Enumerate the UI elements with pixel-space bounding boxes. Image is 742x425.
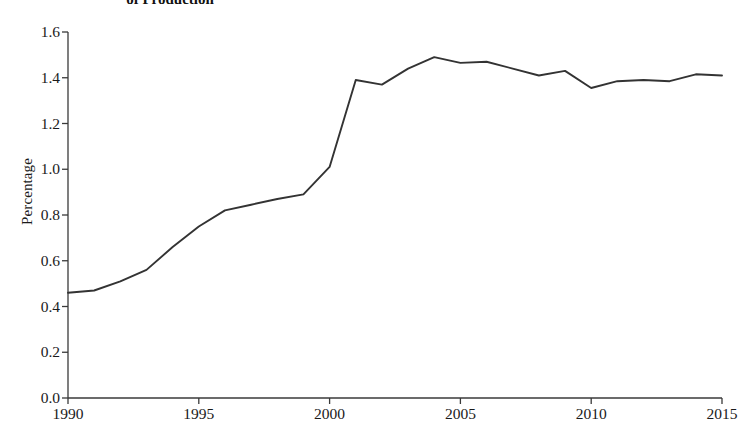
y-tick-label: 0.4: [14, 299, 60, 314]
y-tick-label: 1.6: [14, 24, 60, 39]
data-series: [68, 57, 722, 293]
axes: [62, 32, 722, 404]
x-tick-label: 2015: [687, 406, 742, 422]
y-tick-label: 0.8: [14, 207, 60, 222]
y-tick-label: 1.4: [14, 70, 60, 85]
y-tick-label: 1.0: [14, 161, 60, 176]
y-tick-label: 0.6: [14, 253, 60, 268]
y-tick-label: 1.2: [14, 116, 60, 131]
x-tick-label: 2000: [295, 406, 365, 422]
x-tick-label: 1995: [164, 406, 234, 422]
y-tick-label: 0.0: [14, 390, 60, 405]
x-tick-label: 2005: [425, 406, 495, 422]
x-tick-label: 1990: [33, 406, 103, 422]
y-tick-label: 0.2: [14, 344, 60, 359]
x-tick-label: 2010: [556, 406, 626, 422]
